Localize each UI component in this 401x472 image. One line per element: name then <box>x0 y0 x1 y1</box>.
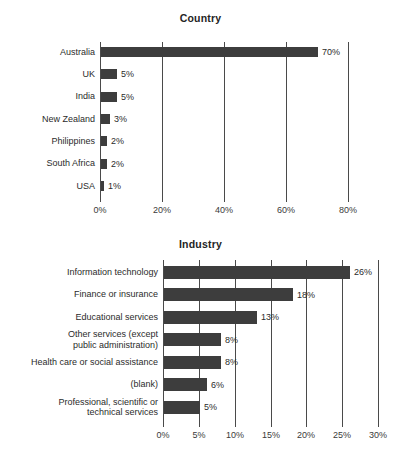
axis-tick <box>199 422 200 427</box>
bar <box>101 114 110 124</box>
axis-tick <box>235 422 236 427</box>
x-axis-tick-label: 20% <box>297 430 315 440</box>
bar-value-label: 3% <box>114 114 127 124</box>
bar-value-label: 2% <box>111 159 124 169</box>
gridline <box>342 260 343 422</box>
bar-value-label: 2% <box>111 136 124 146</box>
industry-chart: Industry 0%5%10%15%20%25%30%26%Informati… <box>0 236 401 472</box>
bar <box>164 401 200 414</box>
axis-tick <box>306 422 307 427</box>
gridline <box>271 260 272 422</box>
axis-tick <box>100 197 101 202</box>
category-label: Health care or social assistance <box>0 357 158 368</box>
bar <box>164 356 221 369</box>
axis-tick <box>224 197 225 202</box>
gridline <box>224 42 225 197</box>
x-axis-tick-label: 0% <box>156 430 169 440</box>
bar <box>164 266 350 279</box>
bar <box>101 181 104 191</box>
category-label: Australia <box>0 47 95 58</box>
axis-tick <box>162 197 163 202</box>
bar <box>101 136 107 146</box>
x-axis-tick-label: 10% <box>226 430 244 440</box>
category-label: Information technology <box>0 267 158 278</box>
bar <box>164 311 257 324</box>
gridline <box>286 42 287 197</box>
category-label: India <box>0 91 95 102</box>
x-axis-tick-label: 20% <box>153 205 171 215</box>
bar-value-label: 5% <box>121 92 134 102</box>
gridline <box>306 260 307 422</box>
x-axis-tick-label: 25% <box>333 430 351 440</box>
axis-tick <box>286 197 287 202</box>
bar-value-label: 5% <box>204 402 217 412</box>
country-chart-title: Country <box>0 12 401 24</box>
bar <box>164 288 293 301</box>
bar-value-label: 5% <box>121 69 134 79</box>
axis-tick <box>342 422 343 427</box>
bar <box>101 47 318 57</box>
category-label: (blank) <box>0 379 158 390</box>
category-label: Educational services <box>0 312 158 323</box>
bar <box>101 92 117 102</box>
axis-tick <box>348 197 349 202</box>
category-label: Finance or insurance <box>0 289 158 300</box>
bar <box>101 159 107 169</box>
axis-tick <box>378 422 379 427</box>
x-axis-tick-label: 30% <box>369 430 387 440</box>
axis-tick <box>163 422 164 427</box>
x-axis-tick-label: 0% <box>93 205 106 215</box>
country-plot-area <box>100 42 348 197</box>
category-label: South Africa <box>0 158 95 169</box>
bar-value-label: 70% <box>322 47 340 57</box>
x-axis-tick-label: 80% <box>339 205 357 215</box>
x-axis-tick-label: 40% <box>215 205 233 215</box>
gridline <box>378 260 379 422</box>
category-label: Other services (except public administra… <box>0 329 158 350</box>
category-label: Professional, scientific or technical se… <box>0 397 158 418</box>
category-label: New Zealand <box>0 114 95 125</box>
gridline <box>348 42 349 197</box>
bar-value-label: 1% <box>108 181 121 191</box>
bar <box>164 333 221 346</box>
x-axis-tick-label: 60% <box>277 205 295 215</box>
industry-chart-title: Industry <box>0 238 401 250</box>
bar <box>101 69 117 79</box>
bar-value-label: 13% <box>261 312 279 322</box>
category-label: UK <box>0 69 95 80</box>
bar-value-label: 8% <box>225 357 238 367</box>
bar-value-label: 18% <box>297 290 315 300</box>
industry-plot-area <box>163 260 378 422</box>
category-label: USA <box>0 181 95 192</box>
x-axis-tick-label: 15% <box>262 430 280 440</box>
x-axis-tick-label: 5% <box>192 430 205 440</box>
category-label: Philippines <box>0 136 95 147</box>
gridline <box>162 42 163 197</box>
country-chart: Country 0%20%40%60%80%70%Australia5%UK5%… <box>0 0 401 236</box>
bar <box>164 378 207 391</box>
axis-tick <box>271 422 272 427</box>
bar-value-label: 6% <box>211 380 224 390</box>
bar-value-label: 8% <box>225 335 238 345</box>
bar-value-label: 26% <box>354 267 372 277</box>
